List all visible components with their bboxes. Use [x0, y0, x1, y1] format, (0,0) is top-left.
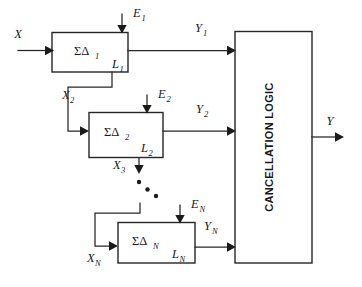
stage-2-output-label-sub: 2 — [204, 109, 209, 119]
stage-2-loss-label: L — [140, 141, 148, 155]
stage-n-block-label-sub: N — [152, 241, 160, 251]
ellipsis-dot-3 — [154, 194, 158, 198]
stage-2-error-label: E — [157, 87, 166, 101]
stage-1-block-label-sub: 1 — [95, 51, 99, 61]
stage-n-input-label-sub: N — [94, 258, 102, 268]
block-diagram-figure: X E 1 ΣΔ 1 L 1 Y 1 X 2 E 2 ΣΔ 2 L 2 — [0, 0, 362, 287]
stage-1-error-label: E — [132, 6, 141, 20]
stage-2-input-arrowhead — [80, 126, 89, 135]
ellipsis-dot-1 — [137, 180, 141, 184]
stage-3-input-label-sub: 3 — [120, 165, 125, 175]
cancellation-logic-label: CANCELLATION LOGIC — [263, 82, 275, 211]
stage-1-loss-label-sub: 1 — [120, 64, 124, 74]
stage-n-block-label: ΣΔ — [132, 234, 147, 248]
stage-n-output-label-sub: N — [211, 226, 219, 236]
stage-n-input-arrowhead — [109, 241, 118, 250]
stage-n-loss-label: L — [171, 247, 179, 261]
ellipsis-dot-2 — [145, 187, 149, 191]
diagram-canvas: X E 1 ΣΔ 1 L 1 Y 1 X 2 E 2 ΣΔ 2 L 2 — [0, 0, 362, 287]
stage-3-input-arrowhead — [134, 165, 143, 174]
stage-2-block-label-sub: 2 — [125, 132, 130, 142]
stage-2-loss-label-sub: 2 — [149, 148, 154, 158]
final-output-label: Y — [327, 114, 336, 128]
stage-1-loss-label: L — [111, 57, 119, 71]
stage-2-block-label: ΣΔ — [104, 125, 119, 139]
stage-n-loss-label-sub: N — [179, 254, 187, 264]
stage-2-input-label-sub: 2 — [70, 95, 75, 105]
stage-2-error-label-sub: 2 — [167, 94, 172, 104]
stage-1-error-label-sub: 1 — [142, 13, 146, 23]
primary-input-label: X — [13, 27, 23, 41]
final-output-arrowhead — [335, 132, 344, 141]
stage-n-error-label-sub: N — [199, 204, 207, 214]
stage-2-input-wire — [68, 72, 112, 131]
stage-1-output-label-sub: 1 — [203, 28, 207, 38]
stage-1-block-label: ΣΔ — [74, 44, 89, 58]
stage-n-error-label: E — [190, 197, 199, 211]
